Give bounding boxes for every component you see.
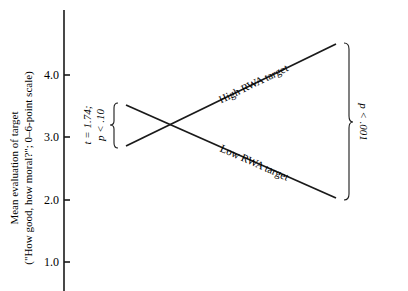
left-stat-t: t = 1.74; [81, 106, 93, 145]
tick-label-3: 3.0 [44, 130, 59, 144]
tick-label-4: 4.0 [44, 68, 59, 82]
y-axis-label-line1: Mean evaluation of target [8, 111, 20, 224]
tick-label-2: 2.0 [44, 193, 59, 207]
right-stat-p: p < .001 [358, 102, 370, 141]
y-ticks [64, 75, 70, 262]
left-brace [110, 103, 118, 148]
interaction-chart: 4.0 3.0 2.0 1.0 Mean evaluation of targe… [0, 0, 408, 291]
high-rwa-label: High RWA target [217, 61, 290, 105]
left-stat-p: p < .10 [94, 108, 106, 142]
y-axis-label-line2: ("How good, how moral?"; 0–6-point scale… [22, 71, 35, 265]
tick-label-1: 1.0 [44, 255, 59, 269]
low-rwa-label: Low RWA target [218, 142, 290, 183]
right-brace [344, 43, 353, 200]
